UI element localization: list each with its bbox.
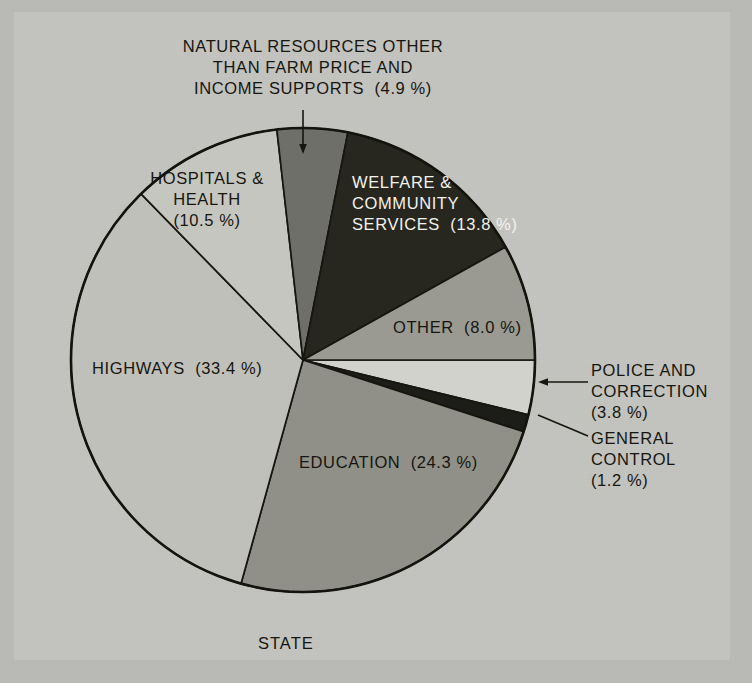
slice-label-general-control: GENERAL CONTROL (1.2 %) — [591, 428, 751, 491]
arrowhead-police-correction — [538, 378, 548, 386]
slice-label-other: OTHER (8.0 %) — [393, 317, 583, 338]
slice-label-natural-resources: NATURAL RESOURCES OTHER THAN FARM PRICE … — [178, 36, 448, 99]
slice-label-police-and-correction: POLICE AND CORRECTION (3.8 %) — [591, 360, 751, 423]
figure-caption-state: STATE — [258, 633, 398, 654]
leader-line-general-control — [538, 415, 588, 436]
pie-chart-figure: NATURAL RESOURCES OTHER THAN FARM PRICE … — [0, 0, 752, 683]
slice-label-welfare-community-services: WELFARE & COMMUNITY SERVICES (13.8 %) — [352, 172, 572, 235]
slice-label-highways: HIGHWAYS (33.4 %) — [92, 358, 302, 379]
slice-label-education: EDUCATION (24.3 %) — [299, 452, 529, 473]
slice-label-hospitals-health: HOSPITALS & HEALTH (10.5 %) — [122, 168, 292, 231]
pie-chart-svg — [0, 0, 752, 683]
